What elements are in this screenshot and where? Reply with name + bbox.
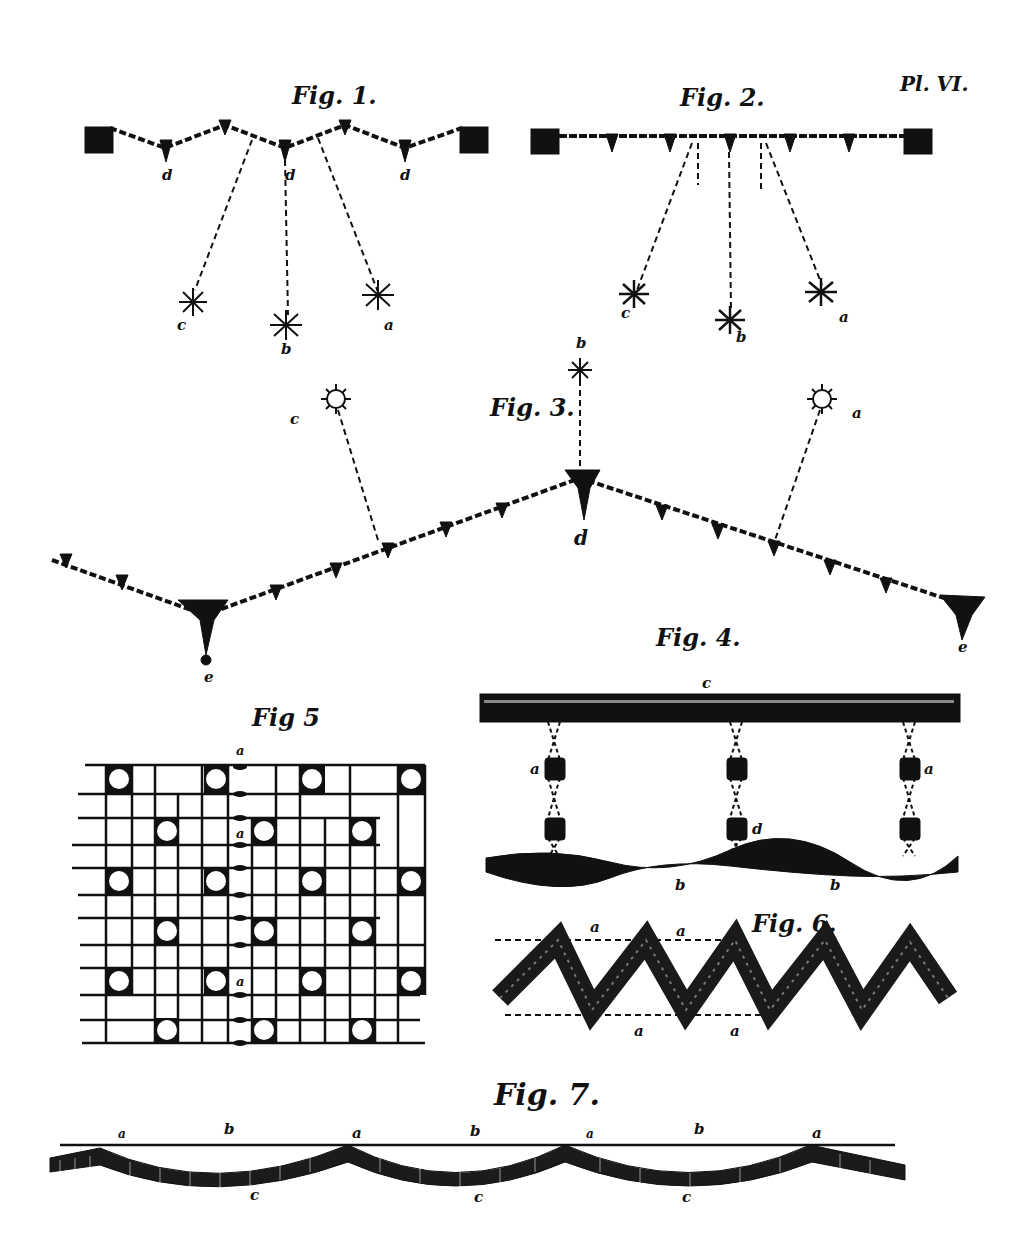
figure-7-drawing [0, 0, 1030, 1254]
label-c: c [250, 1188, 259, 1203]
patent-plate: Pl. VI. Fig. 1. [0, 0, 1030, 1254]
label-a: a [812, 1126, 822, 1141]
label-b: b [694, 1122, 705, 1137]
label-a: a [352, 1126, 362, 1141]
label-a: a [586, 1128, 594, 1140]
label-b: b [224, 1122, 235, 1137]
label-c: c [474, 1190, 483, 1205]
label-c: c [682, 1190, 691, 1205]
label-a: a [118, 1128, 126, 1140]
label-b: b [470, 1124, 481, 1139]
